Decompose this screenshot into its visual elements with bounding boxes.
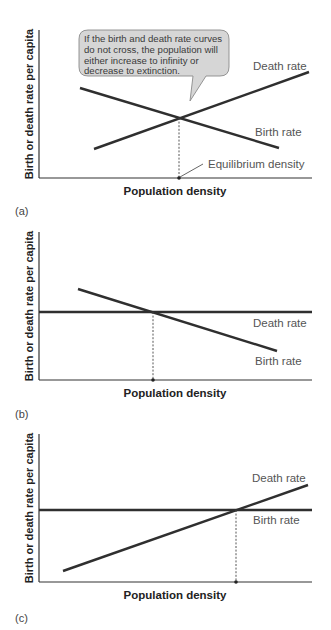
death-rate-label: Death rate [253, 317, 307, 329]
callout-line-2: do not cross, the population will [84, 44, 218, 55]
birth-rate-label: Birth rate [255, 355, 302, 367]
y-axis-label: Birth or death rate per capita [23, 28, 35, 179]
x-axis-label: Population density [124, 387, 227, 399]
death-rate-label: Death rate [252, 472, 306, 484]
birth-rate-label: Birth rate [255, 126, 302, 138]
equilibrium-pointer [180, 164, 203, 177]
panel-tag: (b) [15, 408, 28, 420]
callout-line-4: decrease to extinction. [84, 65, 180, 76]
equilibrium-density-label: Equilibrium density [208, 158, 305, 170]
equilibrium-marker [234, 580, 238, 584]
death-rate-label: Death rate [253, 60, 307, 72]
equilibrium-marker [151, 378, 155, 382]
panel-a: If the birth and death rate curves do no… [15, 28, 312, 217]
birth-rate-label: Birth rate [253, 514, 300, 526]
birth-rate-curve [78, 289, 277, 351]
figure-canvas: If the birth and death rate curves do no… [0, 0, 331, 630]
death-rate-curve [63, 485, 308, 571]
y-axis-label: Birth or death rate per capita [23, 230, 35, 381]
callout-line-1: If the birth and death rate curves [84, 33, 222, 44]
panel-c: Death rate Birth rate Birth or death rat… [15, 432, 312, 624]
x-axis-label: Population density [124, 589, 227, 601]
panel-tag: (c) [15, 612, 28, 624]
x-axis-label: Population density [124, 185, 227, 197]
callout-bubble: If the birth and death rate curves do no… [79, 30, 229, 101]
panel-b: Death rate Birth rate Birth or death rat… [15, 230, 312, 420]
panel-tag: (a) [15, 205, 28, 217]
y-axis-label: Birth or death rate per capita [23, 432, 35, 583]
